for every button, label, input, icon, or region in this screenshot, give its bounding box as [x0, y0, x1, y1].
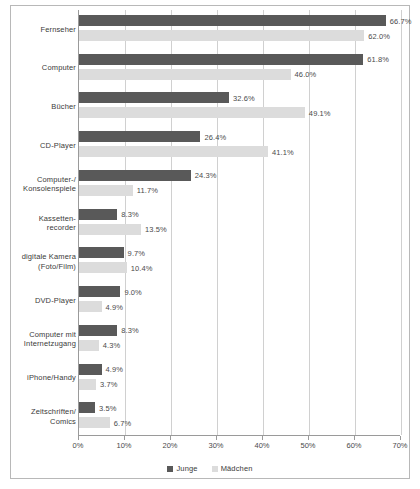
legend-label: Mädchen [221, 464, 253, 473]
bar-value-label: 8.3% [121, 326, 139, 335]
bar-value-label: 32.6% [233, 93, 255, 102]
chart-container: FernseherComputerBücherCD-PlayerComputer… [0, 0, 420, 489]
bar-line: 8.3% [79, 209, 400, 220]
bar-value-label: 8.3% [121, 210, 139, 219]
bar-maedchen [79, 379, 96, 390]
bar-line: 66.7% [79, 15, 400, 26]
category-label: iPhone/Handy [10, 373, 76, 383]
x-tick-label: 20% [162, 441, 177, 450]
legend-swatch-icon [167, 466, 173, 472]
bar-row: 8.3%4.3% [79, 320, 400, 359]
x-tick-label: 70% [392, 441, 407, 450]
bar-line: 41.1% [79, 146, 400, 157]
x-tick-mark [124, 436, 125, 440]
bar-line: 26.4% [79, 131, 400, 142]
bar-junge [79, 15, 386, 26]
category-label: Computer-/Konsolenspiele [10, 175, 76, 194]
bar-line: 10.4% [79, 262, 400, 273]
bar-value-label: 9.0% [124, 287, 142, 296]
bar-line: 46.0% [79, 69, 400, 80]
gridline [401, 10, 402, 435]
bar-row: 24.3%11.7% [79, 165, 400, 204]
bar-value-label: 62.0% [368, 31, 390, 40]
category-label: Bücher [10, 102, 76, 112]
category-label: Computer mitInternetzugang [10, 330, 76, 349]
category-label: Kassetten-recorder [10, 214, 76, 233]
bar-junge [79, 325, 117, 336]
bar-line: 61.8% [79, 54, 400, 65]
category-label: Computer [10, 63, 76, 73]
bar-line: 62.0% [79, 30, 400, 41]
x-tick-mark [78, 436, 79, 440]
bar-maedchen [79, 340, 99, 351]
x-tick-mark [400, 436, 401, 440]
bar-junge [79, 247, 124, 258]
bar-rows: 66.7%62.0%61.8%46.0%32.6%49.1%26.4%41.1%… [79, 10, 400, 435]
bar-line: 32.6% [79, 92, 400, 103]
bar-row: 8.3%13.5% [79, 204, 400, 243]
x-axis: 0%10%20%30%40%50%60%70% [78, 436, 400, 456]
bar-junge [79, 286, 120, 297]
category-label: Zeitschriften/Comics [10, 407, 76, 426]
bar-value-label: 4.9% [106, 365, 124, 374]
chart-legend: JungeMädchen [0, 464, 420, 473]
bar-line: 9.7% [79, 247, 400, 258]
bar-value-label: 4.3% [103, 341, 121, 350]
bar-maedchen [79, 185, 133, 196]
bar-maedchen [79, 301, 102, 312]
x-tick-label: 50% [300, 441, 315, 450]
bar-line: 3.7% [79, 379, 400, 390]
bar-value-label: 24.3% [195, 171, 217, 180]
x-tick-mark [216, 436, 217, 440]
bar-value-label: 46.0% [295, 70, 317, 79]
bar-junge [79, 54, 363, 65]
legend-item[interactable]: Mädchen [212, 464, 253, 473]
bar-junge [79, 131, 200, 142]
bar-value-label: 3.7% [100, 380, 118, 389]
x-tick-mark [354, 436, 355, 440]
bar-value-label: 13.5% [145, 225, 167, 234]
category-label: DVD-Player [10, 296, 76, 306]
category-axis-labels: FernseherComputerBücherCD-PlayerComputer… [10, 10, 76, 436]
x-tick-mark [308, 436, 309, 440]
bar-line: 4.3% [79, 340, 400, 351]
bar-line: 4.9% [79, 301, 400, 312]
bar-maedchen [79, 107, 305, 118]
legend-item[interactable]: Junge [167, 464, 197, 473]
bar-maedchen [79, 30, 364, 41]
x-tick-label: 60% [346, 441, 361, 450]
bar-row: 61.8%46.0% [79, 49, 400, 88]
bar-value-label: 9.7% [128, 248, 146, 257]
bar-maedchen [79, 262, 127, 273]
x-tick-label: 0% [73, 441, 84, 450]
bar-value-label: 6.7% [114, 418, 132, 427]
bar-value-label: 61.8% [367, 55, 389, 64]
bar-value-label: 10.4% [131, 263, 153, 272]
bar-row: 3.5%6.7% [79, 397, 400, 436]
bar-row: 66.7%62.0% [79, 10, 400, 49]
bar-row: 9.0%4.9% [79, 281, 400, 320]
bar-line: 3.5% [79, 402, 400, 413]
bar-row: 32.6%49.1% [79, 87, 400, 126]
x-tick-label: 40% [254, 441, 269, 450]
bar-junge [79, 170, 191, 181]
bar-line: 6.7% [79, 417, 400, 428]
bar-value-label: 66.7% [390, 16, 412, 25]
bar-maedchen [79, 146, 268, 157]
bar-line: 8.3% [79, 325, 400, 336]
bar-row: 9.7%10.4% [79, 242, 400, 281]
category-label: Fernseher [10, 25, 76, 35]
category-label: CD-Player [10, 141, 76, 151]
bar-junge [79, 209, 117, 220]
bar-value-label: 11.7% [137, 186, 158, 195]
bar-junge [79, 92, 229, 103]
bar-value-label: 49.1% [309, 108, 331, 117]
bar-line: 24.3% [79, 170, 400, 181]
legend-swatch-icon [212, 466, 218, 472]
bar-line: 11.7% [79, 185, 400, 196]
bar-value-label: 3.5% [99, 403, 117, 412]
bar-line: 9.0% [79, 286, 400, 297]
bar-row: 4.9%3.7% [79, 359, 400, 398]
plot-area: 66.7%62.0%61.8%46.0%32.6%49.1%26.4%41.1%… [78, 10, 400, 436]
bar-line: 49.1% [79, 107, 400, 118]
